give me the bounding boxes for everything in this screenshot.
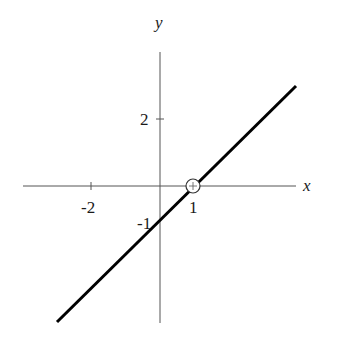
y-tick-label-neg1: -1	[137, 214, 151, 233]
y-tick-label-2: 2	[140, 110, 149, 129]
x-axis-label: x	[302, 176, 311, 195]
x-tick-label-neg2: -2	[81, 198, 95, 217]
y-axis-label: y	[153, 13, 163, 32]
x-tick-label-1: 1	[189, 198, 198, 217]
graph: y x -2 1 2 -1	[0, 0, 338, 338]
